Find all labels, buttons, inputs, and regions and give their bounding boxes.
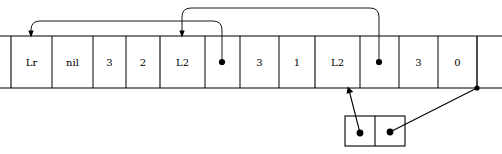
cell-label-4: L2 xyxy=(176,57,189,68)
cons-right-terminal-dot xyxy=(474,85,479,90)
main-cell-array xyxy=(11,36,477,88)
cell-label-7: 1 xyxy=(294,57,300,68)
cons-right-diagonal xyxy=(390,88,477,132)
pointer-cell5-to-cell0 xyxy=(28,21,225,65)
cell-label-6: 3 xyxy=(256,57,262,68)
pointer-arc-2-path xyxy=(182,8,379,62)
cons-node-dot-left xyxy=(357,130,364,137)
pointer-cons-left-to-array xyxy=(347,87,364,137)
pointer-dot-cell-9 xyxy=(376,59,382,65)
cell-label-1: nil xyxy=(66,57,79,68)
pointer-dot-cell-5 xyxy=(219,59,225,65)
diagram-svg: Lr nil 3 2 L2 3 1 L2 3 0 xyxy=(0,0,502,154)
cell-label-2: 3 xyxy=(106,57,112,68)
cons-left-diagonal xyxy=(349,90,360,133)
cell-label-10: 3 xyxy=(415,57,421,68)
main-cell-labels: Lr nil 3 2 L2 3 1 L2 3 0 xyxy=(26,57,461,68)
cell-label-3: 2 xyxy=(140,57,146,68)
pointer-cons-right-to-array-end xyxy=(387,85,480,135)
cell-label-0: Lr xyxy=(26,57,38,68)
cons-node-dot-right xyxy=(387,129,394,136)
cell-label-8: L2 xyxy=(331,57,344,68)
cell-label-11: 0 xyxy=(454,57,460,68)
cons-node xyxy=(345,116,405,146)
diagram-canvas: Lr nil 3 2 L2 3 1 L2 3 0 xyxy=(0,0,502,154)
